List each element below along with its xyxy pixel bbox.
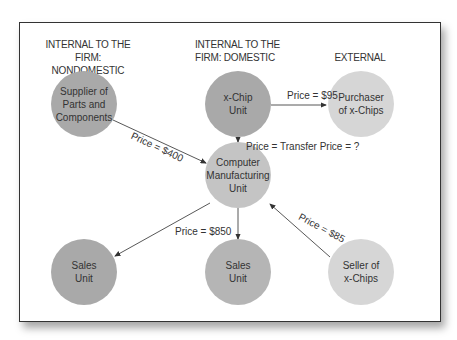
label-price-850: Price = $850 bbox=[175, 226, 231, 237]
node-seller: Seller ofx-Chips bbox=[328, 239, 394, 305]
node-sales-domestic: SalesUnit bbox=[205, 239, 271, 305]
node-supplier: Supplier ofParts andComponents bbox=[51, 71, 117, 137]
node-xchip-unit: x-ChipUnit bbox=[205, 71, 271, 137]
header-external: EXTERNAL bbox=[330, 51, 390, 64]
label-transfer-price: Price = Transfer Price = ? bbox=[246, 141, 359, 152]
header-domestic: INTERNAL TO THE FIRM: DOMESTIC bbox=[195, 38, 285, 64]
node-purchaser: Purchaserof x-Chips bbox=[328, 71, 394, 137]
label-price-95: Price = $95 bbox=[287, 90, 338, 101]
node-sales-nondomestic: SalesUnit bbox=[51, 239, 117, 305]
